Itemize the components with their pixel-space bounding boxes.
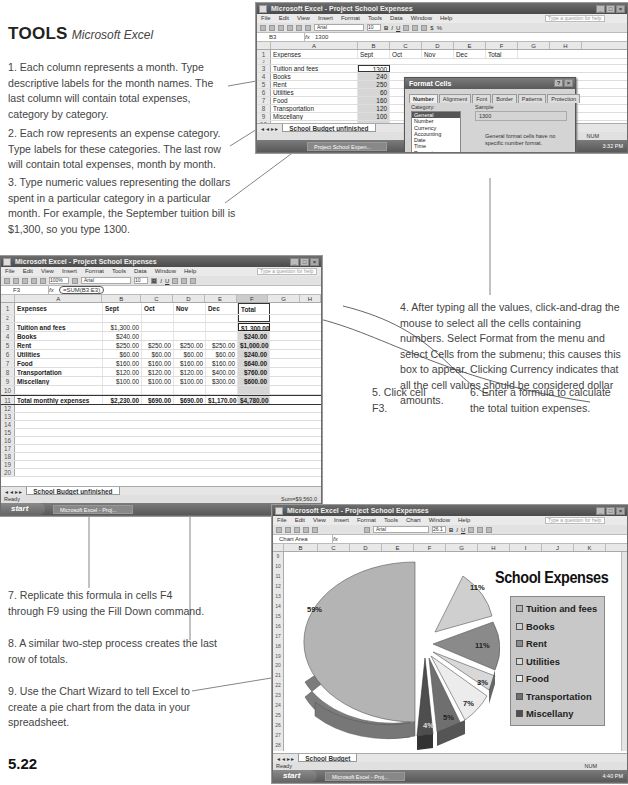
cell[interactable]: $60.00 bbox=[174, 350, 206, 358]
italic-button[interactable]: I bbox=[160, 278, 162, 284]
cell[interactable]: Sept bbox=[358, 50, 390, 58]
menu-tools[interactable]: Tools bbox=[112, 267, 126, 276]
cell[interactable]: Nov bbox=[422, 50, 454, 58]
new-icon[interactable] bbox=[260, 25, 266, 31]
align-center-icon[interactable] bbox=[181, 278, 187, 284]
start-button[interactable]: start bbox=[273, 770, 317, 782]
row-header[interactable]: 5 bbox=[257, 81, 271, 88]
cell[interactable]: Total bbox=[486, 50, 518, 58]
sheet-tab[interactable]: School Budget unfinished bbox=[26, 487, 119, 495]
minimize-button[interactable]: _ bbox=[290, 258, 299, 266]
font-size-select[interactable]: 10 bbox=[134, 277, 148, 284]
row-header[interactable]: 15 bbox=[1, 429, 15, 436]
close-button[interactable]: × bbox=[616, 5, 625, 13]
cell[interactable]: $400.00 bbox=[206, 368, 238, 376]
menu-window[interactable]: Window bbox=[411, 14, 432, 23]
row-header[interactable]: 10 bbox=[1, 386, 15, 394]
save-icon[interactable] bbox=[294, 527, 300, 533]
col-header-c[interactable]: C bbox=[318, 544, 350, 551]
pie-slice-tuition[interactable] bbox=[304, 562, 415, 722]
underline-button[interactable]: U bbox=[461, 527, 465, 533]
row-header[interactable]: 1 bbox=[1, 303, 15, 314]
start-button[interactable]: start bbox=[1, 503, 45, 515]
menu-edit[interactable]: Edit bbox=[279, 14, 289, 23]
row-header[interactable]: 2 bbox=[257, 59, 271, 64]
menu-file[interactable]: File bbox=[5, 267, 15, 276]
tab-scroll-arrows[interactable]: ◂ ◂ ▸ ▸ bbox=[5, 487, 22, 495]
font-size-select[interactable]: 26.1 bbox=[432, 526, 446, 533]
align-right-icon[interactable] bbox=[486, 527, 492, 533]
col-header-h[interactable]: H bbox=[300, 295, 321, 302]
vertical-scrollbar[interactable] bbox=[621, 552, 627, 751]
row-header[interactable]: 28 bbox=[273, 741, 283, 751]
cell[interactable]: Utilities bbox=[271, 89, 358, 96]
tab-scroll-arrows[interactable]: ◂ ◂ ▸ ▸ bbox=[261, 124, 278, 132]
cell[interactable]: $250.00 bbox=[206, 341, 238, 349]
underline-button[interactable]: U bbox=[396, 25, 400, 31]
row-header[interactable]: 4 bbox=[1, 332, 15, 340]
col-header-a[interactable]: A bbox=[15, 295, 102, 302]
taskbar-item[interactable]: Microsoft Excel - Proj... bbox=[325, 772, 405, 781]
row-header[interactable]: 13 bbox=[273, 592, 283, 602]
formula-input[interactable]: 1300 bbox=[315, 33, 328, 41]
col-header-g[interactable]: G bbox=[518, 42, 550, 49]
print-icon[interactable] bbox=[31, 278, 37, 284]
maximize-button[interactable]: □ bbox=[300, 258, 309, 266]
cell[interactable] bbox=[174, 332, 206, 340]
cell[interactable]: Oct bbox=[390, 50, 422, 58]
category-list[interactable]: General Number Currency Accounting Date … bbox=[411, 111, 461, 153]
col-header-d[interactable]: D bbox=[173, 295, 205, 302]
align-center-icon[interactable] bbox=[477, 527, 483, 533]
cell[interactable]: $120.00 bbox=[103, 368, 142, 376]
col-header-d[interactable]: D bbox=[350, 544, 382, 551]
row-header[interactable]: 9 bbox=[1, 377, 15, 385]
cell[interactable]: $690.00 bbox=[142, 396, 174, 404]
help-search-input[interactable]: Type a question for help bbox=[545, 517, 605, 524]
cell[interactable]: Food bbox=[271, 97, 358, 104]
col-header-e[interactable]: E bbox=[454, 42, 486, 49]
menu-tools[interactable]: Tools bbox=[368, 14, 382, 23]
percent-button[interactable]: % bbox=[437, 25, 442, 31]
formula-input[interactable]: =SUM(B3:E3) bbox=[59, 286, 104, 294]
row-header[interactable]: 12 bbox=[1, 405, 15, 412]
row-header[interactable]: 12 bbox=[273, 582, 283, 592]
undo-icon[interactable] bbox=[40, 278, 46, 284]
cell[interactable]: Tuition and fees bbox=[271, 65, 358, 72]
cell[interactable] bbox=[142, 323, 174, 331]
menu-format[interactable]: Format bbox=[341, 14, 360, 23]
menu-edit[interactable]: Edit bbox=[295, 516, 305, 525]
cell[interactable]: $60.00 bbox=[142, 350, 174, 358]
font-select[interactable]: Arial bbox=[314, 24, 364, 31]
cell[interactable]: $1,300.00 bbox=[103, 323, 142, 331]
cell[interactable]: $100.00 bbox=[103, 377, 142, 385]
row-header[interactable]: 2 bbox=[1, 315, 15, 322]
cell[interactable]: $60.00 bbox=[103, 350, 142, 358]
menu-insert[interactable]: Insert bbox=[318, 14, 333, 23]
cell[interactable] bbox=[174, 323, 206, 331]
row-header[interactable]: 3 bbox=[257, 65, 271, 72]
undo-icon[interactable] bbox=[312, 527, 318, 533]
help-search-input[interactable]: Type a question for help bbox=[545, 15, 605, 22]
menu-insert[interactable]: Insert bbox=[62, 267, 77, 276]
sheet-tab[interactable]: School Budget unfinished bbox=[282, 124, 375, 132]
align-right-icon[interactable] bbox=[421, 25, 427, 31]
cell[interactable]: Rent bbox=[15, 341, 103, 349]
tab-patterns[interactable]: Patterns bbox=[518, 94, 546, 103]
italic-button[interactable]: I bbox=[391, 25, 393, 31]
new-icon[interactable] bbox=[276, 527, 282, 533]
row-header[interactable]: 27 bbox=[273, 731, 283, 741]
cell[interactable]: 100 bbox=[358, 113, 390, 120]
bold-button[interactable]: B bbox=[449, 527, 453, 533]
cell[interactable]: $250.00 bbox=[103, 341, 142, 349]
cell[interactable]: $160.00 bbox=[142, 359, 174, 367]
row-header[interactable]: 19 bbox=[273, 652, 283, 662]
row-header[interactable]: 7 bbox=[257, 97, 271, 104]
menu-file[interactable]: File bbox=[277, 516, 287, 525]
col-header-c[interactable]: C bbox=[141, 295, 173, 302]
menu-edit[interactable]: Edit bbox=[23, 267, 33, 276]
save-icon[interactable] bbox=[278, 25, 284, 31]
col-header-b[interactable]: B bbox=[284, 544, 318, 551]
row-header[interactable]: 18 bbox=[273, 642, 283, 652]
cell[interactable]: Sept bbox=[103, 303, 142, 314]
col-header-a[interactable]: A bbox=[271, 42, 358, 49]
